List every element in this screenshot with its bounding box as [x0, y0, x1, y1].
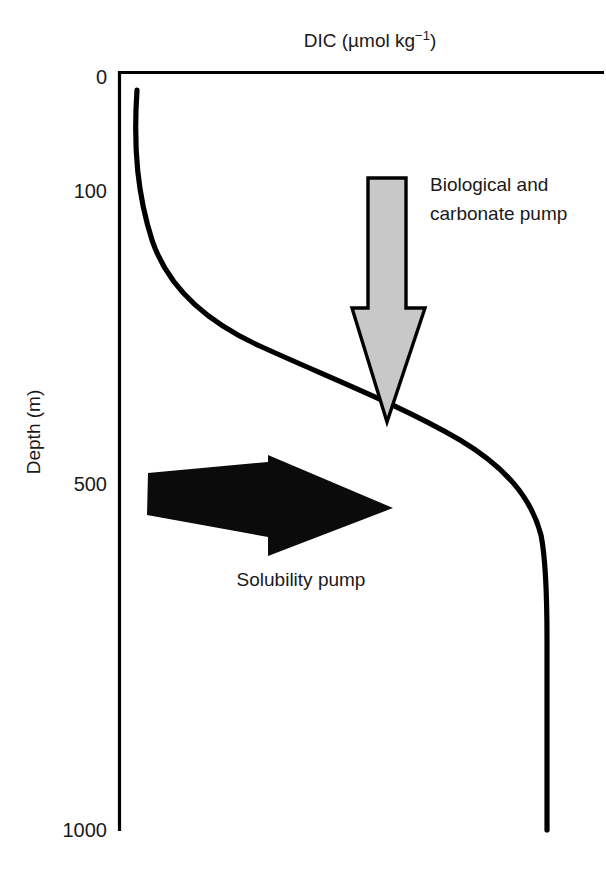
chart-title: DIC (µmol kg−1)	[304, 28, 436, 51]
figure-root: 0 100 500 1000 Depth (m) DIC (µmol kg−1)…	[0, 0, 606, 872]
chart-title-close: )	[430, 30, 436, 51]
chart-title-superscript: −1	[415, 28, 430, 43]
dic-profile-curve	[136, 90, 547, 830]
biological-pump-label-line2: carbonate pump	[430, 203, 567, 224]
solubility-pump-label: Solubility pump	[237, 569, 366, 590]
y-tick-label-0: 0	[96, 66, 107, 88]
y-axis-title: Depth (m)	[23, 390, 44, 474]
chart-title-main: DIC (µmol kg	[304, 30, 415, 51]
y-tick-label-500: 500	[74, 473, 107, 495]
biological-pump-label-line1: Biological and	[430, 174, 548, 195]
biological-pump-down-arrow	[352, 178, 425, 422]
y-tick-label-1000: 1000	[63, 819, 108, 841]
solubility-pump-right-arrow	[147, 455, 393, 556]
dic-depth-profile-chart: 0 100 500 1000 Depth (m) DIC (µmol kg−1)…	[0, 0, 606, 872]
y-tick-label-100: 100	[74, 180, 107, 202]
